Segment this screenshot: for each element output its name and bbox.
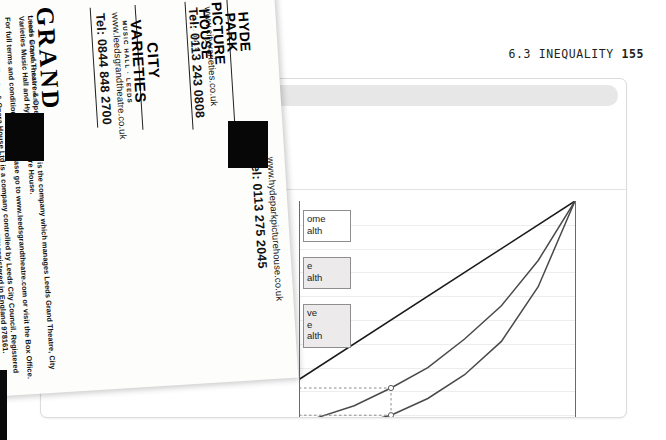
lorenz-curve-plot: 30 40 50 60 70 80 90 100 Cumulative perc… [299,201,576,418]
city-varieties-logo: CITY VARIETIES MUSIC HALL · LEEDS [120,2,164,121]
legend-entry-2-line-1: e [307,260,347,272]
city-varieties-wordmark: CITY VARIETIES [127,2,164,121]
legend-entry-3: ve e alth [303,304,351,348]
grand-theatre-logo: GRAND Theatre & Opera House Leeds [27,6,63,112]
legend-entry-3-line-3: alth [307,330,347,342]
redaction-block-center [228,121,268,168]
legend-entry-2: e alth [303,257,351,289]
header-section-title: 6.3 INEQUALITY [509,47,614,61]
legend-entry-3-line-1: ve [307,307,347,319]
page-edge-shadow-strip [0,370,7,440]
hyde-park-website[interactable]: www.hydeparkpicturehouse.co.uk [265,156,285,301]
page-running-header: 6.3 INEQUALITY 155 [509,47,644,61]
legend-entry-1-line-2: alth [307,225,347,237]
page-number: 155 [621,47,644,61]
legend-entry-3-line-2: e [307,319,347,331]
legend-entry-2-line-2: alth [307,272,347,284]
legend-entry-1-line-1: ome [307,213,347,225]
hyde-park-picture-house-logo: HYDE PARK PICTURE HOUSE Est. 1914 [191,0,253,66]
hyde-park-wordmark: HYDE PARK PICTURE HOUSE [197,0,253,66]
redaction-block-left [5,113,44,161]
legend-entry-1: ome alth [303,210,351,242]
theatre-flyer-overlay[interactable]: Leeds Grand Theatre & Opera House Ltd is… [0,0,298,398]
